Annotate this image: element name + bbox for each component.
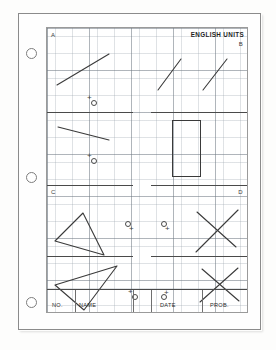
title-block-divider-1 bbox=[75, 290, 76, 312]
plus-icon: + bbox=[129, 225, 134, 233]
title-block-number-label: NO. bbox=[52, 302, 63, 308]
figure-row2-line bbox=[58, 127, 109, 140]
figure-a-line bbox=[57, 54, 109, 85]
figure-b-line-left bbox=[158, 59, 181, 90]
figure-c-triangle bbox=[55, 213, 104, 255]
plus-icon: + bbox=[165, 225, 170, 233]
figure-b-line-right bbox=[203, 59, 227, 90]
punch-hole-middle-icon bbox=[26, 172, 37, 183]
title-block: NO. NAME DATE PROB. bbox=[47, 289, 247, 312]
title-block-divider-3 bbox=[151, 290, 152, 312]
worksheet-page: A ENGLISH UNITS B C D bbox=[0, 0, 276, 350]
drawing-frame: A ENGLISH UNITS B C D bbox=[46, 27, 248, 313]
figure-row2-rectangle bbox=[172, 120, 201, 177]
punch-hole-bottom-icon bbox=[26, 297, 37, 308]
title-block-divider-2 bbox=[133, 290, 134, 312]
title-block-date-label: DATE bbox=[160, 302, 176, 308]
figure-layer bbox=[47, 28, 248, 313]
title-block-problem-label: PROB. bbox=[210, 302, 229, 308]
title-block-divider-4 bbox=[202, 290, 203, 312]
punch-hole-top-icon bbox=[26, 48, 37, 59]
title-block-name-label: NAME bbox=[79, 302, 96, 308]
